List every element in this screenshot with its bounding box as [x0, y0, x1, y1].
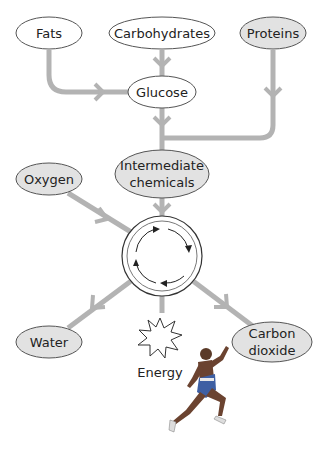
runner-illustration — [169, 346, 229, 432]
label-intermediate-2: chemicals — [129, 175, 194, 190]
node-glucose: Glucose — [128, 76, 196, 108]
node-carbohydrates: Carbohydrates — [109, 17, 215, 49]
cycle-arrows-icon — [122, 216, 202, 296]
arrow-cycle-co2 — [193, 281, 254, 327]
node-carbon-dioxide: Carbon dioxide — [232, 322, 312, 362]
label-water: Water — [30, 335, 69, 350]
label-fats: Fats — [36, 26, 62, 41]
node-oxygen: Oxygen — [16, 163, 82, 195]
label-carbon-2: dioxide — [249, 343, 296, 358]
label-glucose: Glucose — [136, 85, 188, 100]
starburst-icon — [138, 318, 182, 358]
node-water: Water — [16, 326, 82, 358]
label-oxygen: Oxygen — [24, 172, 74, 187]
node-intermediate-chemicals: Intermediate chemicals — [115, 150, 209, 198]
label-energy: Energy — [137, 365, 183, 380]
arrow-oxygen-cycle — [68, 193, 131, 232]
label-intermediate-1: Intermediate — [120, 158, 204, 173]
arrow-fats-glucose — [49, 50, 128, 92]
label-carbon-1: Carbon — [249, 326, 296, 341]
diagram-canvas: Fats Carbohydrates Proteins Glucose Inte… — [0, 0, 328, 450]
node-proteins: Proteins — [240, 17, 306, 49]
arrow-cycle-water — [68, 281, 131, 328]
label-proteins: Proteins — [247, 26, 300, 41]
node-fats: Fats — [16, 17, 82, 49]
label-carbohydrates: Carbohydrates — [114, 26, 210, 41]
